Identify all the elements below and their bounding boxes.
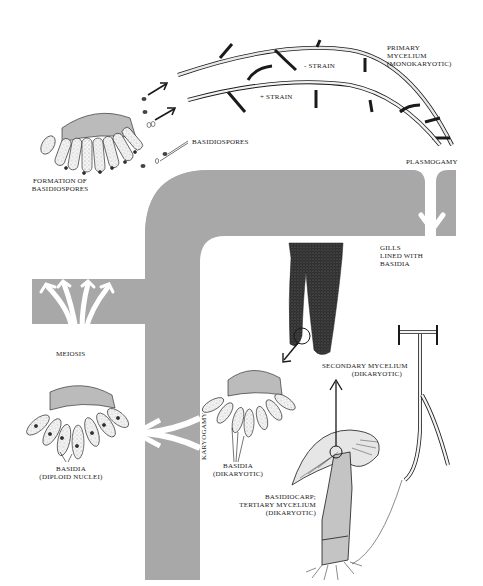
- label-basidia-diploid: BASIDIA (DIPLOID NUCLEI): [38, 465, 104, 481]
- basidiospores: [141, 97, 189, 168]
- label-plasmogamy: PLASMOGAMY: [406, 158, 458, 166]
- label-basidia-dikaryotic: BASIDIA (DIKARYOTIC): [210, 462, 266, 478]
- label-minus-strain: - STRAIN: [304, 62, 335, 70]
- label-karyogamy: KARYOGAMY: [200, 412, 208, 460]
- secondary-mycelium-drawing: [398, 325, 448, 480]
- label-gills: GILLS LINED WITH BASIDIA: [380, 244, 423, 268]
- label-primary-mycelium: PRIMARY MYCELIUM (MONOKARYOTIC): [387, 44, 452, 68]
- label-plus-strain: + STRAIN: [260, 93, 293, 101]
- spore-arrows: [148, 83, 175, 120]
- basidiocarp-mushroom: [292, 380, 402, 580]
- label-secondary-mycelium: SECONDARY MYCELIUM (DIKARYOTIC): [322, 362, 402, 378]
- label-basidiospores: BASIDIOSPORES: [192, 138, 249, 146]
- basidia-dikaryotic-cluster: [200, 370, 298, 462]
- life-cycle-diagram: PRIMARY MYCELIUM (MONOKARYOTIC) - STRAIN…: [0, 0, 483, 586]
- label-meiosis: MEIOSIS: [56, 350, 85, 358]
- label-basidiocarp: BASIDIOCARP; TERTIARY MYCELIUM (DIKARYOT…: [236, 493, 316, 517]
- band-plasmogamy-column: [436, 170, 456, 236]
- basidia-diploid-cluster: [23, 386, 131, 462]
- label-formation-of-basidiospores: FORMATION OF BASIDIOSPORES: [30, 177, 90, 193]
- basidiospore-formation-cluster: [38, 113, 144, 174]
- gills-drawing: [283, 243, 343, 362]
